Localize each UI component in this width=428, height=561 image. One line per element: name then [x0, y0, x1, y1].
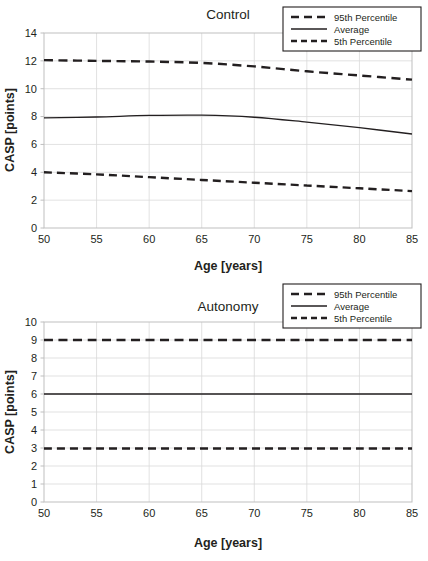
- plot-area-background: [44, 33, 412, 228]
- x-axis-label: Age [years]: [194, 536, 262, 550]
- y-tick-label: 10: [25, 316, 37, 328]
- legend[interactable]: 95th Percentile Average 5th Percentile: [283, 7, 421, 51]
- x-tick-label: 80: [353, 233, 365, 245]
- x-tick-label: 50: [38, 507, 50, 519]
- x-tick-label: 55: [90, 507, 102, 519]
- y-tick-label: 4: [31, 424, 37, 436]
- y-tick-label: 0: [31, 222, 37, 234]
- y-tick-label: 3: [31, 442, 37, 454]
- x-tick-label: 65: [196, 233, 208, 245]
- y-tick-label: 9: [31, 334, 37, 346]
- y-tick-label: 2: [31, 194, 37, 206]
- figure-page: 02468101214 5055606570758085 Control CAS…: [0, 0, 428, 561]
- legend-label: Average: [334, 24, 369, 35]
- y-tick-label: 12: [25, 55, 37, 67]
- legend-label: 95th Percentile: [334, 289, 397, 300]
- chart-title: Control: [206, 7, 250, 22]
- x-tick-label: 85: [406, 507, 418, 519]
- y-tick-label: 8: [31, 352, 37, 364]
- y-tick-label: 4: [31, 166, 37, 178]
- y-tick-label: 2: [31, 460, 37, 472]
- x-tick-label: 55: [90, 233, 102, 245]
- x-tick-label: 70: [248, 507, 260, 519]
- x-tick-label: 75: [301, 507, 313, 519]
- chart-panel-control: 02468101214 5055606570758085 Control CAS…: [0, 0, 428, 280]
- y-axis-tick-labels: 012345678910: [25, 316, 44, 508]
- chart-title: Autonomy: [198, 299, 259, 314]
- x-tick-label: 50: [38, 233, 50, 245]
- y-tick-label: 10: [25, 83, 37, 95]
- y-axis-tick-labels: 02468101214: [25, 27, 44, 234]
- x-axis-tick-labels: 5055606570758085: [38, 233, 418, 245]
- legend-label: 5th Percentile: [334, 36, 392, 47]
- x-tick-label: 85: [406, 233, 418, 245]
- y-tick-label: 5: [31, 406, 37, 418]
- x-tick-label: 70: [248, 233, 260, 245]
- y-axis-label: CASP [points]: [3, 370, 17, 454]
- y-tick-label: 6: [31, 138, 37, 150]
- y-tick-label: 0: [31, 496, 37, 508]
- autonomy-chart-svg: 012345678910 5055606570758085 Autonomy C…: [0, 281, 428, 561]
- legend-label: 5th Percentile: [334, 313, 392, 324]
- legend[interactable]: 95th Percentile Average 5th Percentile: [283, 284, 421, 328]
- chart-panel-autonomy: 012345678910 5055606570758085 Autonomy C…: [0, 281, 428, 561]
- y-tick-label: 6: [31, 388, 37, 400]
- y-tick-label: 14: [25, 27, 37, 39]
- legend-label: 95th Percentile: [334, 12, 397, 23]
- x-tick-label: 75: [301, 233, 313, 245]
- x-tick-label: 65: [196, 507, 208, 519]
- x-axis-label: Age [years]: [194, 259, 262, 273]
- y-axis-label: CASP [points]: [3, 88, 17, 172]
- control-chart-svg: 02468101214 5055606570758085 Control CAS…: [0, 0, 428, 280]
- x-axis-tick-labels: 5055606570758085: [38, 507, 418, 519]
- y-tick-label: 1: [31, 478, 37, 490]
- y-tick-label: 8: [31, 110, 37, 122]
- x-tick-label: 80: [353, 507, 365, 519]
- y-tick-label: 7: [31, 370, 37, 382]
- legend-label: Average: [334, 301, 369, 312]
- x-tick-label: 60: [143, 233, 155, 245]
- x-tick-label: 60: [143, 507, 155, 519]
